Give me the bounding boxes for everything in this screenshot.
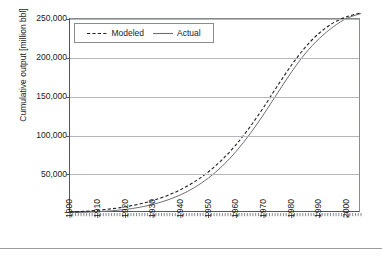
y-tick-label: 150,000 — [7, 92, 67, 100]
y-tick-mark — [66, 19, 70, 20]
plot-area: Modeled Actual — [69, 18, 360, 212]
x-tick-label: 1950 — [204, 184, 213, 218]
y-tick-label: 250,000 — [7, 14, 67, 22]
dashed-line-icon — [87, 30, 107, 37]
x-tick-label: 1970 — [259, 184, 268, 218]
y-tick-mark — [66, 136, 70, 137]
x-tick-label: 2000 — [342, 184, 351, 218]
x-tick-label: 1910 — [93, 184, 102, 218]
x-tick-label: 1990 — [314, 184, 323, 218]
x-tick-label: 1960 — [231, 184, 240, 218]
legend-label-modeled: Modeled — [111, 29, 144, 38]
y-tick-label: 100,000 — [7, 131, 67, 139]
x-tick-label: 1900 — [65, 184, 74, 218]
gridline — [70, 136, 359, 137]
legend-item-modeled: Modeled — [87, 29, 144, 38]
y-tick-mark — [66, 58, 70, 59]
gridline — [70, 19, 359, 20]
gridline — [70, 174, 359, 175]
legend-item-actual: Actual — [153, 29, 201, 38]
legend-label-actual: Actual — [177, 29, 201, 38]
footer-divider — [0, 248, 382, 249]
y-tick-label: 200,000 — [7, 53, 67, 61]
y-tick-label: - — [7, 208, 67, 216]
series-line-actual — [70, 14, 361, 213]
x-tick-label: 1920 — [121, 184, 130, 218]
y-tick-label: 50,000 — [7, 170, 67, 178]
y-axis-title: Cumulative output [million bbl] — [18, 0, 28, 150]
x-tick-label: 1930 — [148, 184, 157, 218]
solid-line-icon — [153, 30, 173, 37]
x-tick-label: 1980 — [287, 184, 296, 218]
gridline — [70, 58, 359, 59]
y-tick-mark — [66, 174, 70, 175]
chart-figure: Cumulative output [million bbl] 250,000 … — [0, 0, 382, 257]
chart-legend: Modeled Actual — [74, 23, 214, 43]
x-tick-label: 1940 — [176, 184, 185, 218]
y-tick-mark — [66, 97, 70, 98]
gridline — [70, 97, 359, 98]
